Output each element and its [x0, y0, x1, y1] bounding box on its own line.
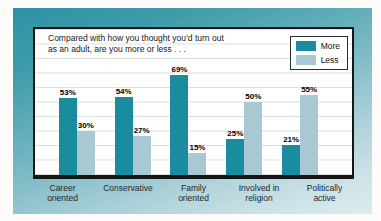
category-axis: Career oriented Conservative Family orie… [29, 183, 358, 203]
bar-column: 27% [133, 126, 151, 175]
bar-group-religion: 25% 50% [226, 92, 262, 175]
chart-card: Compared with how you thought you’d turn… [13, 8, 372, 214]
value-label-more: 69% [171, 65, 187, 74]
bar-group-political: 21% 55% [282, 85, 318, 175]
value-label-less: 27% [134, 126, 150, 135]
bar-less [188, 153, 206, 175]
bar-column: 30% [77, 121, 95, 175]
value-label-more: 54% [116, 87, 132, 96]
value-label-less: 55% [301, 85, 317, 94]
value-label-more: 25% [227, 129, 243, 138]
category-label-conservative: Conservative [96, 183, 160, 203]
bar-more [115, 97, 133, 175]
category-label-career: Career oriented [31, 183, 95, 203]
bar-column: 15% [188, 143, 206, 175]
bar-more [226, 139, 244, 175]
value-label-less: 30% [78, 121, 94, 130]
bar-column: 54% [115, 87, 133, 175]
bar-column: 25% [226, 129, 244, 175]
bar-column: 69% [170, 65, 188, 175]
bar-less [300, 95, 318, 175]
page-background: Compared with how you thought you’d turn… [0, 0, 381, 221]
legend-label-less: Less [321, 55, 339, 65]
bar-group-career: 53% 30% [59, 88, 95, 175]
bar-more [282, 145, 300, 175]
value-label-more: 21% [283, 135, 299, 144]
bar-column: 21% [282, 135, 300, 175]
value-label-less: 15% [189, 143, 205, 152]
bar-column: 53% [59, 88, 77, 175]
legend-row-less: Less [296, 55, 340, 65]
bar-column: 50% [244, 92, 262, 175]
bar-more [59, 98, 77, 175]
bar-less [244, 102, 262, 175]
bar-group-conservative: 54% 27% [115, 87, 151, 175]
category-label-political: Politically active [293, 183, 357, 203]
value-label-more: 53% [60, 88, 76, 97]
chart-title: Compared with how you thought you’d turn… [48, 33, 224, 55]
value-label-less: 50% [245, 92, 261, 101]
plot-panel: Compared with how you thought you’d turn… [33, 27, 354, 179]
category-label-religion: Involved in religion [227, 183, 291, 203]
legend-swatch-more [296, 41, 316, 51]
bar-group-family: 69% 15% [170, 65, 206, 175]
bar-column: 55% [300, 85, 318, 175]
bar-groups: 53% 30% 54% 27% [39, 65, 338, 175]
legend-swatch-less [296, 55, 316, 65]
bar-less [133, 136, 151, 175]
bar-less [77, 131, 95, 175]
legend-row-more: More [296, 41, 340, 51]
legend-label-more: More [321, 41, 340, 51]
category-label-family: Family oriented [162, 183, 226, 203]
bar-more [170, 75, 188, 175]
